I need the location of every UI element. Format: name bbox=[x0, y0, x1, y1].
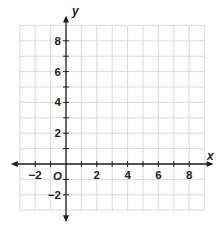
x-tick-label: 2 bbox=[94, 169, 100, 181]
x-tick-label: −2 bbox=[29, 169, 42, 181]
y-tick-label: 6 bbox=[55, 66, 61, 78]
x-axis-label: x bbox=[206, 149, 215, 163]
y-tick-label: 4 bbox=[55, 96, 62, 108]
grid bbox=[20, 25, 205, 210]
x-tick-label: 8 bbox=[186, 169, 193, 181]
y-tick-label: 2 bbox=[55, 127, 61, 139]
coordinate-plane: −224688642−2 x y O bbox=[0, 0, 221, 229]
y-tick-label: −2 bbox=[48, 189, 61, 201]
y-axis-top-arrow bbox=[63, 15, 69, 22]
x-tick-label: 6 bbox=[155, 169, 161, 181]
y-axis-bottom-arrow bbox=[63, 215, 69, 222]
y-tick-label: 8 bbox=[55, 35, 62, 47]
y-axis-label: y bbox=[71, 4, 80, 18]
x-tick-label: 4 bbox=[124, 169, 131, 181]
origin-label: O bbox=[53, 170, 62, 182]
x-axis-left-arrow bbox=[11, 161, 18, 167]
